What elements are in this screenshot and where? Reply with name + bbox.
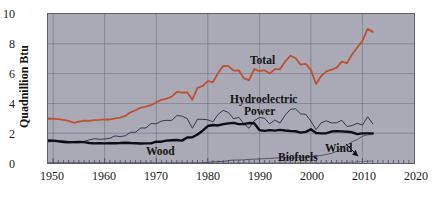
chart-figure: Quadnillion Btu 10 8 6 4 2 0 1950 1960 1… (0, 0, 433, 201)
series-label-wind: Wind (325, 142, 352, 154)
y-tick-label-4: 4 (0, 99, 15, 109)
x-tick-label-2000: 2000 (292, 170, 332, 182)
y-axis-title: Quadnillion Btu (17, 17, 32, 157)
y-tick-label-2: 2 (0, 129, 15, 139)
series-label-hydroelectric: Hydroelectric (230, 93, 297, 105)
x-tick-label-1990: 1990 (240, 170, 280, 182)
y-tick-label-6: 6 (0, 69, 15, 79)
y-tick-label-10: 10 (0, 9, 15, 19)
x-tick-label-1970: 1970 (136, 170, 176, 182)
y-tick-label-0: 0 (0, 159, 15, 169)
series-label-biofuels: Biofuels (278, 151, 318, 163)
x-tick-label-2020: 2020 (396, 170, 433, 182)
series-label-wood: Wood (146, 145, 175, 157)
y-tick-label-8: 8 (0, 39, 15, 49)
x-tick-label-2010: 2010 (344, 170, 384, 182)
x-tick-label-1950: 1950 (32, 170, 72, 182)
series-label-total: Total (250, 54, 275, 66)
plot-area: Total Hydroelectric Power Wood Biofuels … (47, 13, 415, 164)
x-tick-label-1960: 1960 (84, 170, 124, 182)
plot-svg (48, 14, 414, 163)
series-label-hydroelectric-power-line2: Power (244, 105, 275, 117)
x-tick-label-1980: 1980 (188, 170, 228, 182)
